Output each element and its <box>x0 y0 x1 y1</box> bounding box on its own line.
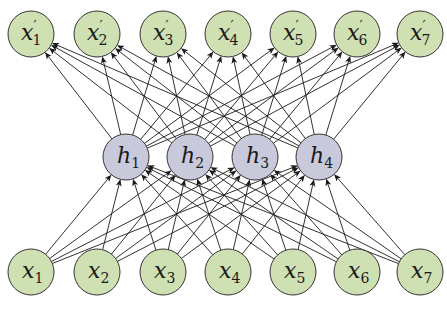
edge-h3-o1 <box>52 46 235 146</box>
edge-i2-h3 <box>116 171 236 258</box>
edge-h4-o3 <box>182 49 301 143</box>
node-h3: h3 <box>232 134 278 180</box>
node-o5: x′5 <box>270 11 316 57</box>
connection-edges <box>46 43 405 263</box>
node-h4: h4 <box>296 134 342 180</box>
node-o1: x′1 <box>8 11 54 57</box>
edge-i3-h2 <box>168 180 184 249</box>
autoencoder-diagram: x′1x′2x′3x′4x′5x′6x′7h1h2h3h4x1x2x3x4x5x… <box>0 0 447 309</box>
node-o2: x′2 <box>74 11 120 57</box>
node-i4: x4 <box>205 249 251 295</box>
node-h2: h2 <box>167 134 213 180</box>
edge-h2-o6 <box>209 48 338 143</box>
edge-i3-h1 <box>133 180 156 250</box>
edge-h3-o7 <box>273 48 400 143</box>
edge-i1-h1 <box>46 176 111 255</box>
edge-i7-h3 <box>275 171 401 259</box>
edge-h4-o1 <box>53 43 298 148</box>
node-i6: x6 <box>334 249 380 295</box>
node-h1: h1 <box>103 134 149 180</box>
node-o4: x′4 <box>205 11 251 57</box>
node-i1: x1 <box>8 249 54 295</box>
edge-h2-o7 <box>210 45 399 146</box>
edge-h1-o1 <box>46 53 112 139</box>
edge-i2-h1 <box>103 180 121 249</box>
edge-i7-h2 <box>211 168 399 262</box>
node-i7: x7 <box>397 249 443 295</box>
edge-i2-h2 <box>111 176 174 254</box>
node-o6: x′6 <box>334 11 380 57</box>
network-nodes: x′1x′2x′3x′4x′5x′6x′7h1h2h3h4x1x2x3x4x5x… <box>8 11 443 295</box>
node-i5: x5 <box>270 249 316 295</box>
edge-h2-o1 <box>50 49 172 143</box>
node-i3: x3 <box>140 249 186 295</box>
node-o7: x′7 <box>397 11 443 57</box>
node-i2: x2 <box>74 249 120 295</box>
node-o3: x′3 <box>140 11 186 57</box>
edge-i5-h1 <box>146 171 274 259</box>
edge-i1-h2 <box>50 171 171 258</box>
